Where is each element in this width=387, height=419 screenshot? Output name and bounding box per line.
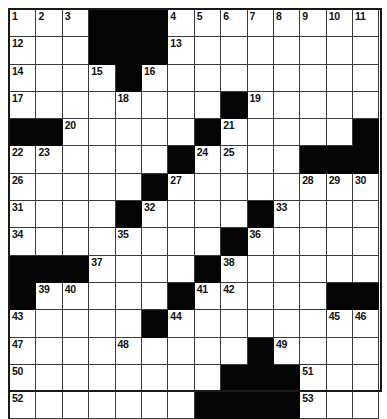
letter-cell[interactable]	[168, 201, 194, 228]
letter-cell[interactable]	[63, 201, 89, 228]
letter-cell[interactable]	[274, 119, 300, 146]
letter-cell[interactable]	[300, 37, 326, 64]
letter-cell[interactable]	[116, 365, 142, 392]
letter-cell[interactable]	[221, 201, 247, 228]
letter-cell[interactable]: 33	[274, 201, 300, 228]
letter-cell[interactable]	[89, 310, 115, 337]
letter-cell[interactable]: 15	[89, 65, 115, 92]
letter-cell[interactable]	[300, 338, 326, 365]
letter-cell[interactable]	[63, 92, 89, 119]
letter-cell[interactable]	[195, 365, 221, 392]
letter-cell[interactable]: 53	[300, 392, 326, 419]
letter-cell[interactable]	[248, 65, 274, 92]
letter-cell[interactable]: 51	[300, 365, 326, 392]
letter-cell[interactable]	[327, 228, 353, 255]
letter-cell[interactable]	[168, 92, 194, 119]
letter-cell[interactable]: 18	[116, 92, 142, 119]
letter-cell[interactable]	[274, 146, 300, 173]
letter-cell[interactable]	[353, 256, 379, 283]
letter-cell[interactable]: 42	[221, 283, 247, 310]
letter-cell[interactable]: 2	[36, 10, 62, 37]
letter-cell[interactable]: 1	[10, 10, 36, 37]
letter-cell[interactable]	[142, 256, 168, 283]
letter-cell[interactable]	[300, 119, 326, 146]
letter-cell[interactable]: 43	[10, 310, 36, 337]
letter-cell[interactable]	[327, 256, 353, 283]
letter-cell[interactable]: 16	[142, 65, 168, 92]
letter-cell[interactable]: 21	[221, 119, 247, 146]
letter-cell[interactable]: 24	[195, 146, 221, 173]
letter-cell[interactable]	[142, 365, 168, 392]
letter-cell[interactable]	[168, 228, 194, 255]
letter-cell[interactable]	[142, 392, 168, 419]
letter-cell[interactable]	[327, 65, 353, 92]
letter-cell[interactable]	[89, 338, 115, 365]
letter-cell[interactable]: 14	[10, 65, 36, 92]
letter-cell[interactable]	[142, 283, 168, 310]
letter-cell[interactable]: 52	[10, 392, 36, 419]
letter-cell[interactable]	[274, 310, 300, 337]
letter-cell[interactable]: 48	[116, 338, 142, 365]
letter-cell[interactable]	[221, 310, 247, 337]
letter-cell[interactable]	[116, 392, 142, 419]
letter-cell[interactable]	[89, 119, 115, 146]
letter-cell[interactable]	[89, 201, 115, 228]
letter-cell[interactable]	[116, 283, 142, 310]
letter-cell[interactable]	[63, 228, 89, 255]
letter-cell[interactable]	[248, 256, 274, 283]
letter-cell[interactable]	[168, 365, 194, 392]
letter-cell[interactable]	[300, 310, 326, 337]
letter-cell[interactable]	[89, 283, 115, 310]
letter-cell[interactable]	[327, 365, 353, 392]
letter-cell[interactable]: 10	[327, 10, 353, 37]
letter-cell[interactable]	[195, 310, 221, 337]
letter-cell[interactable]	[353, 92, 379, 119]
letter-cell[interactable]	[142, 338, 168, 365]
letter-cell[interactable]	[168, 338, 194, 365]
letter-cell[interactable]: 30	[353, 174, 379, 201]
letter-cell[interactable]	[300, 228, 326, 255]
letter-cell[interactable]	[116, 174, 142, 201]
letter-cell[interactable]	[63, 310, 89, 337]
letter-cell[interactable]	[248, 174, 274, 201]
letter-cell[interactable]	[195, 201, 221, 228]
letter-cell[interactable]: 28	[300, 174, 326, 201]
letter-cell[interactable]	[36, 310, 62, 337]
letter-cell[interactable]	[353, 365, 379, 392]
letter-cell[interactable]	[89, 228, 115, 255]
letter-cell[interactable]	[142, 119, 168, 146]
letter-cell[interactable]: 37	[89, 256, 115, 283]
letter-cell[interactable]	[36, 174, 62, 201]
letter-cell[interactable]	[274, 228, 300, 255]
letter-cell[interactable]: 20	[63, 119, 89, 146]
letter-cell[interactable]	[168, 256, 194, 283]
letter-cell[interactable]	[327, 201, 353, 228]
letter-cell[interactable]: 23	[36, 146, 62, 173]
letter-cell[interactable]: 12	[10, 37, 36, 64]
letter-cell[interactable]: 32	[142, 201, 168, 228]
letter-cell[interactable]	[248, 37, 274, 64]
letter-cell[interactable]	[248, 119, 274, 146]
letter-cell[interactable]	[195, 92, 221, 119]
letter-cell[interactable]	[248, 146, 274, 173]
letter-cell[interactable]: 8	[274, 10, 300, 37]
letter-cell[interactable]	[63, 174, 89, 201]
letter-cell[interactable]: 25	[221, 146, 247, 173]
letter-cell[interactable]	[63, 338, 89, 365]
letter-cell[interactable]: 6	[221, 10, 247, 37]
letter-cell[interactable]	[221, 65, 247, 92]
letter-cell[interactable]	[300, 201, 326, 228]
letter-cell[interactable]: 26	[10, 174, 36, 201]
letter-cell[interactable]	[89, 174, 115, 201]
crossword-grid[interactable]: 1234567891011121314151617181920212223242…	[8, 8, 379, 419]
letter-cell[interactable]: 46	[353, 310, 379, 337]
letter-cell[interactable]	[195, 338, 221, 365]
letter-cell[interactable]	[89, 92, 115, 119]
letter-cell[interactable]	[168, 392, 194, 419]
letter-cell[interactable]	[221, 338, 247, 365]
letter-cell[interactable]	[168, 65, 194, 92]
letter-cell[interactable]: 5	[195, 10, 221, 37]
letter-cell[interactable]: 27	[168, 174, 194, 201]
letter-cell[interactable]	[36, 228, 62, 255]
letter-cell[interactable]: 4	[168, 10, 194, 37]
